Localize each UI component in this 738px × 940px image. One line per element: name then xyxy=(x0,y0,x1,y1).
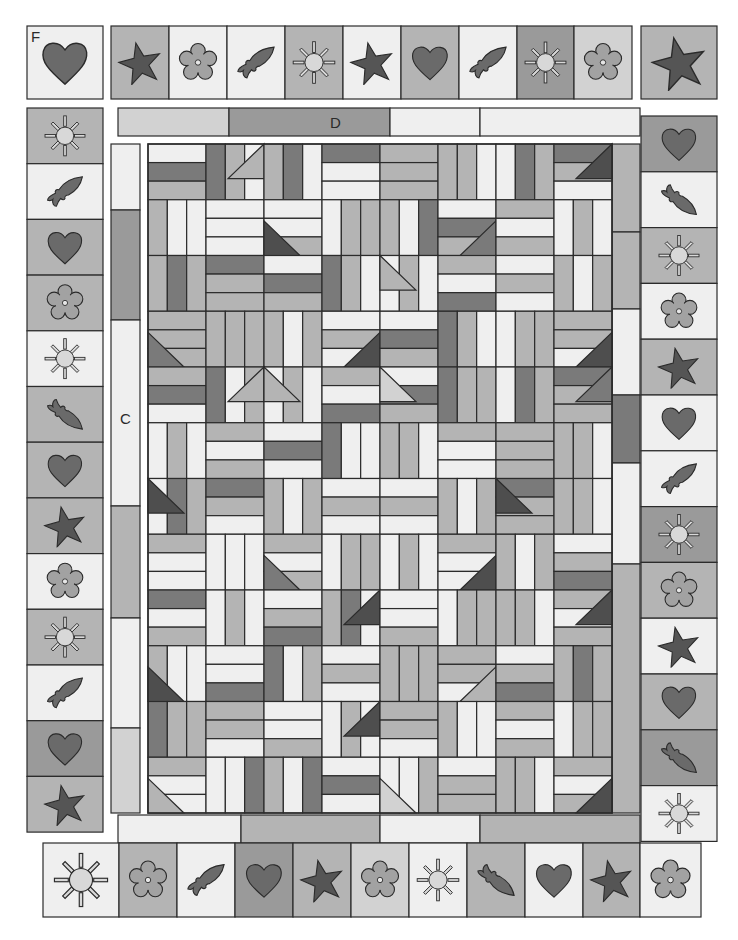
strip xyxy=(206,293,264,312)
quilt-block xyxy=(380,144,496,256)
strip xyxy=(438,590,457,646)
strip xyxy=(187,200,206,256)
quilt-block xyxy=(148,256,264,368)
strip xyxy=(535,590,554,646)
strip xyxy=(380,516,438,535)
strip xyxy=(496,441,554,460)
strip xyxy=(515,367,534,423)
strip xyxy=(283,479,302,535)
quilt-block xyxy=(380,479,496,591)
strip xyxy=(148,423,167,479)
inner_border_left-segment xyxy=(111,618,140,728)
strip xyxy=(554,479,573,535)
strip xyxy=(380,702,438,721)
quilt-block xyxy=(264,702,380,814)
strip xyxy=(593,479,612,535)
strip xyxy=(554,311,612,330)
strip xyxy=(496,237,554,256)
quilt-block xyxy=(496,256,612,368)
strip xyxy=(399,423,418,479)
strip xyxy=(206,367,225,423)
strip xyxy=(322,497,380,516)
strip xyxy=(535,311,554,367)
strip xyxy=(361,423,380,479)
strip xyxy=(554,627,612,646)
strip xyxy=(496,256,554,275)
strip xyxy=(322,683,380,702)
strip xyxy=(322,516,380,535)
quilt-block xyxy=(496,479,612,591)
strip xyxy=(206,460,264,479)
strip xyxy=(438,311,457,367)
strip xyxy=(554,757,612,776)
strip xyxy=(380,497,438,516)
strip xyxy=(380,479,438,498)
strip xyxy=(438,144,457,200)
strip xyxy=(225,590,244,646)
strip xyxy=(496,739,554,758)
strip xyxy=(496,274,554,293)
strip xyxy=(554,702,573,758)
inner_border_right-segment xyxy=(612,309,640,395)
strip xyxy=(148,404,206,423)
strip xyxy=(399,534,418,590)
strip xyxy=(264,609,322,628)
strip xyxy=(380,311,438,330)
quilt-block xyxy=(148,702,264,814)
strip xyxy=(148,757,206,776)
quilt-block xyxy=(148,367,264,479)
strip xyxy=(322,664,380,683)
strip xyxy=(283,311,302,367)
strip xyxy=(554,571,612,590)
strip xyxy=(206,274,264,293)
strip xyxy=(593,646,612,702)
strip xyxy=(283,646,302,702)
strip xyxy=(496,293,554,312)
quilt-block xyxy=(264,590,380,702)
strip xyxy=(380,720,438,739)
strip xyxy=(322,181,380,200)
strip xyxy=(322,479,380,498)
strip xyxy=(264,256,322,275)
strip xyxy=(457,367,476,423)
strip xyxy=(225,311,244,367)
strip xyxy=(206,423,264,442)
strip xyxy=(225,534,244,590)
strip xyxy=(264,441,322,460)
strip xyxy=(264,311,283,367)
strip xyxy=(264,144,283,200)
inner_border_right-segment xyxy=(612,232,640,309)
strip xyxy=(206,720,264,739)
strip xyxy=(554,404,612,423)
strip xyxy=(554,181,612,200)
strip xyxy=(322,311,380,330)
strip xyxy=(457,479,476,535)
strip xyxy=(380,627,438,646)
strip xyxy=(206,664,264,683)
strip xyxy=(264,293,322,312)
strip xyxy=(419,757,438,813)
strip xyxy=(167,256,186,312)
quilt-block xyxy=(264,256,380,368)
strip xyxy=(477,311,496,367)
quilt-block xyxy=(380,256,496,368)
strip xyxy=(380,404,438,423)
strip xyxy=(206,311,225,367)
inner_border_bottom-segment xyxy=(380,815,480,843)
inner_border_left-segment xyxy=(111,728,140,813)
inner_border_bottom-segment xyxy=(118,815,241,843)
strip xyxy=(322,534,341,590)
strip xyxy=(554,423,573,479)
strip xyxy=(477,144,496,200)
strip xyxy=(438,794,496,813)
quilt-block xyxy=(380,367,496,479)
strip xyxy=(438,274,496,293)
strip xyxy=(322,646,380,665)
strip xyxy=(167,200,186,256)
strip xyxy=(438,441,496,460)
strip xyxy=(206,534,225,590)
quilt-block xyxy=(264,367,380,479)
strip xyxy=(573,702,592,758)
strip xyxy=(206,237,264,256)
strip xyxy=(438,776,496,795)
